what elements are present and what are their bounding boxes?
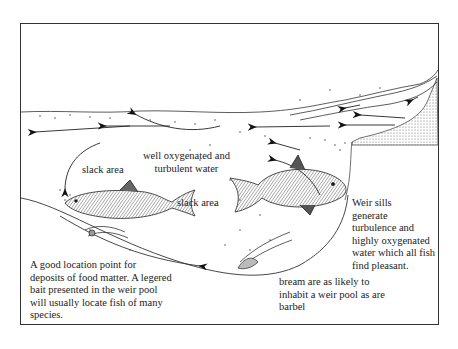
weed-clump <box>238 232 292 269</box>
oxygenated-line-2: turbulent water <box>143 163 230 176</box>
slack-area-left-label: slack area <box>82 164 124 177</box>
caption-line: water which all fish <box>352 247 435 260</box>
location-point-caption: A good location point for deposits of fo… <box>30 259 172 322</box>
oxygenated-line-1: well oxygenated and <box>143 150 230 163</box>
oxygenated-water-label: well oxygenated and turbulent water <box>143 150 230 175</box>
caption-line: will usually locate fish of many <box>30 297 172 310</box>
legered-bait <box>85 226 128 238</box>
caption-line: inhabit a weir pool as are <box>279 289 385 302</box>
caption-line: deposits of food matter. A legered <box>30 272 172 285</box>
barbel-fish <box>65 180 195 218</box>
slack-area-right-label: slack area <box>177 197 219 210</box>
weir-sills-caption: Weir sills generate turbulence and highl… <box>352 197 435 272</box>
caption-line: bream are as likely to <box>279 276 385 289</box>
caption-line: species. <box>30 309 172 322</box>
caption-line: highly oxygenated <box>352 235 435 248</box>
caption-line: generate <box>352 210 435 223</box>
bream-caption: bream are as likely to inhabit a weir po… <box>279 276 385 314</box>
caption-line: barbel <box>279 301 385 314</box>
caption-line: Weir sills <box>352 197 435 210</box>
water-surface <box>21 70 438 120</box>
weir-sill <box>345 78 438 200</box>
caption-line: turbulence and <box>352 222 435 235</box>
caption-line: bait presented in the weir pool <box>30 284 172 297</box>
caption-line: find pleasant. <box>352 260 435 273</box>
caption-line: A good location point for <box>30 259 172 272</box>
